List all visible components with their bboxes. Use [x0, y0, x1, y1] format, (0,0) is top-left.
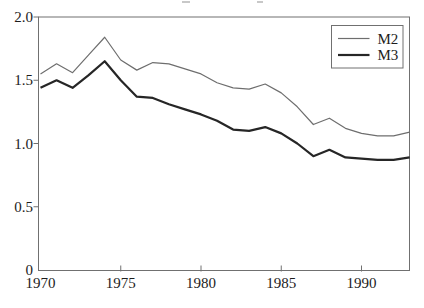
- series-line-m3: [41, 61, 410, 160]
- cropped-text-artifact: [182, 1, 190, 3]
- cropped-text-artifact: [257, 1, 263, 3]
- legend-label-m3: M3: [378, 47, 399, 63]
- legend-label-m2: M2: [378, 31, 399, 47]
- x-axis-tick-label: 1985: [266, 275, 296, 291]
- y-axis-tick-label: 1.5: [14, 72, 33, 88]
- x-axis-tick-label: 1980: [186, 275, 216, 291]
- line-chart: 00.51.01.52.019701975198019851990M2M3: [0, 0, 424, 308]
- y-axis-tick-label: 1.0: [14, 136, 33, 152]
- y-axis-tick-label: 2.0: [14, 9, 33, 25]
- figure: 00.51.01.52.019701975198019851990M2M3: [0, 0, 424, 308]
- x-axis-tick-label: 1990: [347, 275, 377, 291]
- x-axis-tick-label: 1975: [106, 275, 136, 291]
- x-axis-tick-label: 1970: [26, 275, 56, 291]
- y-axis-tick-label: 0.5: [14, 199, 33, 215]
